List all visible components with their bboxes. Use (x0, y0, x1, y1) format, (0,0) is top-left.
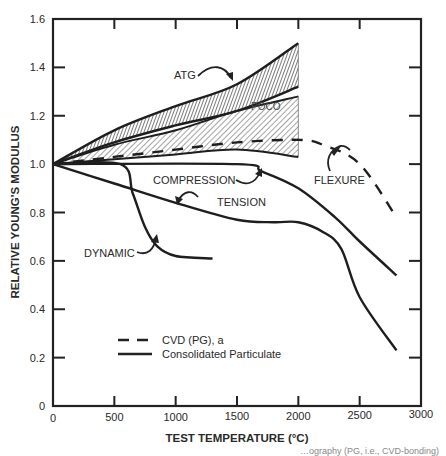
arrow-atg-icon (198, 67, 231, 78)
x-tick-label: 1500 (225, 410, 249, 422)
annotation-compression: COMPRESSION (153, 174, 236, 186)
y-axis-title: RELATIVE YOUNG'S MODULUS (9, 125, 21, 298)
annotation-dynamic: DYNAMIC (84, 247, 135, 259)
y-tick-label: 0.4 (30, 303, 45, 315)
y-tick-label: 1.2 (30, 110, 45, 122)
y-tick-label: 0 (39, 400, 45, 412)
annotation-poco: POCO (251, 101, 281, 112)
y-tick-label: 0.6 (30, 255, 45, 267)
x-tick-label: 2000 (286, 410, 310, 422)
y-tick-label: 0.2 (30, 352, 45, 364)
chart-canvas: 05001000150020002500300000.20.40.60.81.0… (0, 0, 446, 456)
y-tick-label: 1.0 (30, 158, 45, 170)
y-tick-label: 1.4 (30, 61, 45, 73)
x-tick-label: 0 (50, 412, 56, 424)
y-tick-label: 1.6 (30, 13, 45, 25)
x-axis-title: TEST TEMPERATURE (°C) (165, 432, 308, 444)
x-tick-label: 1000 (163, 411, 187, 423)
legend-label-cvd: CVD (PG), a (162, 334, 225, 346)
y-tick-label: 0.8 (30, 207, 45, 219)
data-series (53, 140, 397, 351)
legend-label-consolidated: Consolidated Particulate (162, 348, 281, 360)
x-tick-label: 3000 (409, 408, 433, 420)
annotation-atg: ATG (174, 69, 196, 81)
x-tick-label: 2500 (347, 409, 371, 421)
annotation-flexure: FLEXURE (314, 174, 365, 186)
annotation-tension: TENSION (217, 196, 266, 208)
figure-caption-fragment: …ography (PG, i.e., CVD-bonding) (300, 446, 446, 456)
legend: CVD (PG), a Consolidated Particulate (118, 334, 281, 360)
x-tick-label: 500 (105, 411, 123, 423)
